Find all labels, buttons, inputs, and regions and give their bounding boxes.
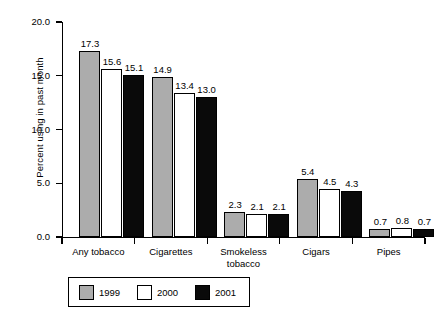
bar: [391, 228, 412, 237]
bar-chart-figure: Percent using in past month 0.05.010.015…: [0, 0, 435, 327]
bar-group: 17.315.615.1: [79, 22, 145, 237]
y-tick-label-10.0: 10.0: [0, 125, 50, 135]
x-tick-3: [279, 238, 280, 244]
legend-label: 2001: [215, 288, 236, 298]
y-tick-label-20.0: 20.0: [0, 17, 50, 27]
y-tick-label-15.0: 15.0: [0, 71, 50, 81]
y-axis-line: [62, 22, 63, 237]
bar-value-label: 14.9: [146, 65, 180, 75]
x-tick-2: [207, 238, 208, 244]
bar: [123, 75, 144, 237]
bar-group: 5.44.54.3: [297, 22, 363, 237]
y-tick-label-5.0: 5.0: [0, 178, 50, 188]
y-tick-label-0.0: 0.0: [0, 232, 50, 242]
bar-value-label: 2.1: [262, 202, 296, 212]
bar-value-label: 5.4: [291, 167, 325, 177]
category-label-line: Pipes: [334, 246, 435, 258]
bar-group: 0.70.80.7: [369, 22, 435, 237]
bar: [196, 97, 217, 237]
bar: [369, 229, 390, 237]
x-tick-1: [134, 238, 135, 244]
bar: [297, 179, 318, 237]
legend-swatch-2000: [137, 285, 152, 300]
bar: [101, 69, 122, 237]
bar-group: 2.32.12.1: [224, 22, 290, 237]
category-label-line: tobacco: [189, 258, 299, 270]
bar: [224, 212, 245, 237]
bar: [319, 189, 340, 237]
legend-label: 2000: [157, 288, 178, 298]
bar-value-label: 13.0: [190, 85, 224, 95]
y-tick-10.0: [56, 129, 62, 130]
legend-swatch-2001: [195, 285, 210, 300]
bar: [152, 77, 173, 237]
x-tick-5: [424, 238, 425, 244]
legend-swatch-1999: [79, 285, 94, 300]
bar-group: 14.913.413.0: [152, 22, 218, 237]
bar: [246, 214, 267, 237]
bar-value-label: 4.3: [335, 179, 369, 189]
bar-value-label: 17.3: [73, 39, 107, 49]
chart-legend: 199920002001: [68, 277, 250, 307]
x-axis-line: [62, 237, 425, 238]
bar: [79, 51, 100, 237]
caption-clipped: [4, 318, 435, 327]
y-tick-5.0: [56, 183, 62, 184]
legend-label: 1999: [99, 288, 120, 298]
x-tick-4: [352, 238, 353, 244]
bar-value-label: 0.7: [407, 217, 435, 227]
x-tick-0: [61, 238, 62, 244]
bar: [341, 191, 362, 237]
bar: [268, 214, 289, 237]
y-tick-20.0: [56, 21, 62, 22]
bar: [413, 229, 434, 237]
y-tick-15.0: [56, 75, 62, 76]
bar: [174, 93, 195, 237]
plot-area: 0.05.010.015.020.0 17.315.615.114.913.41…: [62, 22, 425, 237]
category-label: Pipes: [334, 246, 435, 258]
